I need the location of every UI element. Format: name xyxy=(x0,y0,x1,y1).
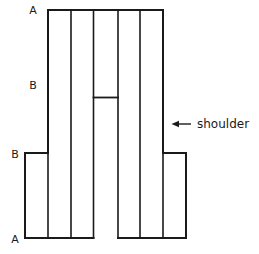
specimen-outline xyxy=(25,10,186,238)
shoulder-callout: shoulder xyxy=(172,117,250,131)
label-b-lower: B xyxy=(11,148,19,161)
label-b-upper: B xyxy=(29,79,37,92)
figure-canvas: Cross-section diagram with shoulder A B … xyxy=(0,0,259,254)
technical-diagram: Cross-section diagram with shoulder A B … xyxy=(0,0,259,254)
label-a-top: A xyxy=(29,4,37,17)
arrow-left-icon xyxy=(172,121,180,127)
label-a-bottom: A xyxy=(11,233,19,246)
shoulder-label: shoulder xyxy=(197,117,249,131)
